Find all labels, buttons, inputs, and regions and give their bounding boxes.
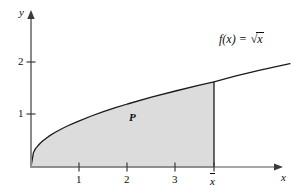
figure-container: y x 1 2 1 2 3 x P f(x) = √x	[0, 0, 299, 193]
y-tick-label-1: 1	[18, 108, 24, 119]
shaded-region-P	[31, 82, 214, 167]
region-label-P: P	[129, 112, 136, 123]
x-axis-label: x	[281, 172, 286, 183]
function-label-prefix: f(x) =	[219, 32, 247, 46]
x-axis-arrowhead	[274, 164, 283, 171]
x-tick-label-xbar: x	[210, 173, 215, 187]
x-tick-label-1: 1	[76, 174, 82, 185]
x-tick-label-3: 3	[172, 174, 178, 185]
radical-sign-icon: √x	[247, 32, 264, 45]
plot-canvas	[0, 0, 299, 193]
y-axis-arrowhead	[27, 10, 34, 19]
x-tick-label-2: 2	[124, 174, 130, 185]
y-tick-label-2: 2	[18, 56, 24, 67]
xbar-base-letter: x	[210, 175, 215, 187]
function-label: f(x) = √x	[219, 32, 264, 45]
xbar-overline	[210, 173, 215, 174]
y-axis-label: y	[19, 7, 24, 18]
radicand: x	[256, 32, 263, 45]
